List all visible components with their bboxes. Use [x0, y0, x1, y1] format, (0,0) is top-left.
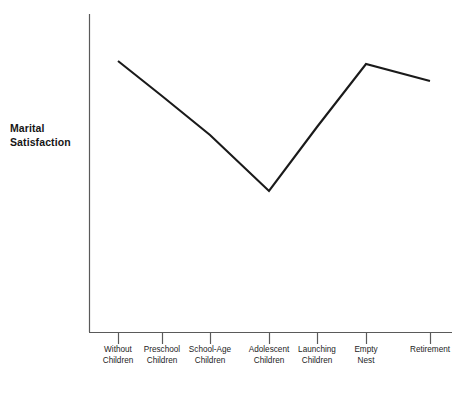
x-label-line: Nest — [321, 356, 411, 367]
y-axis-title: Marital Satisfaction — [10, 121, 86, 149]
x-label-line: Retirement — [385, 345, 468, 356]
x-axis-labels: Without Children Preschool Children Scho… — [0, 345, 468, 385]
x-axis-ticks — [119, 332, 431, 344]
y-axis-title-line-2: Satisfaction — [10, 135, 86, 149]
data-line-marital-satisfaction — [118, 61, 430, 191]
x-label-retirement: Retirement — [385, 345, 468, 356]
chart-canvas — [0, 0, 468, 395]
marital-satisfaction-chart: Marital Satisfaction Without Children Pr… — [0, 0, 468, 395]
y-axis-title-line-1: Marital — [10, 121, 86, 135]
